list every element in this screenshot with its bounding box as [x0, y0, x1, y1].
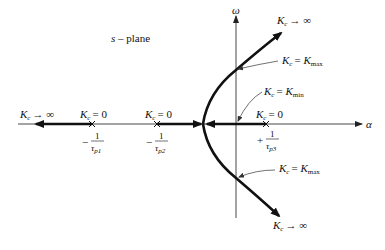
plane-label: s – plane — [111, 32, 150, 44]
svg-text:1: 1 — [159, 131, 164, 141]
label-upper-infinity: Kc→ ∞ — [276, 14, 311, 28]
label-p2-zero-gain: Kc= 0 — [144, 108, 172, 122]
svg-text:+: + — [257, 134, 263, 146]
label-p1-zero-gain: Kc= 0 — [79, 108, 107, 122]
label-left-infinity: Kc→ ∞ — [19, 108, 54, 122]
label-lower-kmax: Kc= Kmax — [278, 162, 320, 176]
label-lower-infinity: Kc→ ∞ — [272, 219, 307, 233]
svg-text:−: − — [146, 136, 152, 148]
root-locus-diagram: s – plane α ω Kc→ ∞ Kc= 0 Kc= 0 Kc= 0 − … — [0, 0, 385, 250]
real-axis-label: α — [366, 118, 372, 130]
label-upper-kmax: Kc= Kmax — [281, 54, 323, 68]
leader-lower-kmax — [239, 170, 275, 177]
pole-label-p1: − 1 τp1 — [82, 131, 104, 155]
pole-label-p2: − 1 τp2 — [146, 131, 168, 155]
label-p3-zero-gain: Kc= 0 — [255, 108, 283, 122]
svg-text:τp3: τp3 — [266, 141, 277, 153]
svg-text:τp1: τp1 — [91, 143, 101, 155]
label-kmin: Kc= Kmin — [263, 85, 304, 99]
svg-text:τp2: τp2 — [155, 143, 166, 155]
pole-label-p3: + 1 τp3 — [257, 129, 279, 153]
svg-text:1: 1 — [95, 131, 100, 141]
svg-text:−: − — [82, 136, 88, 148]
svg-text:1: 1 — [270, 129, 275, 139]
imaginary-axis-label: ω — [232, 4, 240, 16]
